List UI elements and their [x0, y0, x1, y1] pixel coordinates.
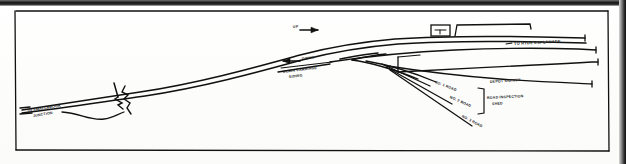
shed-bracket	[478, 88, 484, 114]
smallbrook-junction-throat	[20, 107, 124, 119]
ryde-esplanade-line	[330, 48, 596, 62]
buffer-stops	[585, 35, 598, 87]
main-running-lines	[22, 36, 598, 113]
platform-outline	[455, 24, 531, 36]
up-direction-arrow	[300, 27, 318, 33]
signal-box	[431, 25, 450, 36]
ryde-esplanade-line-lower	[398, 62, 598, 72]
caption-rules	[281, 43, 512, 68]
diagram-page: TO SMALLBROOK JUNCTION UP DOWN DOWN CARR…	[0, 0, 626, 164]
road-no2-line	[386, 67, 452, 104]
inspection-shed-roads	[382, 64, 472, 126]
road-no1-line	[382, 64, 430, 86]
up-running-line	[22, 36, 585, 110]
track-layout-drawing	[0, 0, 626, 164]
road-no3-line	[390, 70, 472, 126]
down-running-line	[22, 41, 586, 113]
